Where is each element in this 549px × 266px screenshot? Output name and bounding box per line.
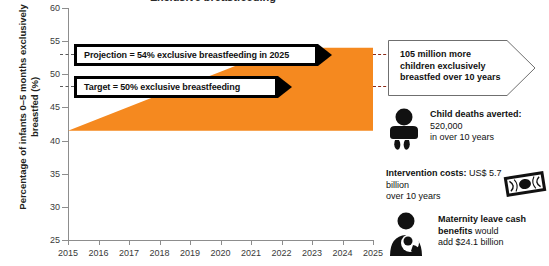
y-tick-label: 30 [38, 202, 60, 212]
breastfeeding-projection-area [68, 8, 373, 240]
x-tick-mark [373, 240, 374, 245]
stat-maternity-leave: Maternity leave cash benefits would add … [386, 212, 546, 258]
x-tick-mark [221, 240, 222, 245]
stat-child-deaths-value: 520,000 [430, 121, 463, 131]
y-tick-label: 40 [38, 136, 60, 146]
projection-axis-stub [60, 54, 74, 55]
banknote-icon [503, 171, 547, 197]
stat-intervention-costs-label: Intervention costs: [386, 168, 467, 178]
y-tick-label: 60 [38, 3, 60, 13]
x-tick-mark [99, 240, 100, 245]
x-tick-mark [190, 240, 191, 245]
x-tick-mark [343, 240, 344, 245]
stat-child-deaths-text: Child deaths averted: 520,000 in over 10… [430, 109, 542, 144]
impact-callout-text: 105 million more children exclusively br… [400, 49, 504, 84]
x-tick-mark [282, 240, 283, 245]
y-axis-label: Percentage of infants 0–5 months exclusi… [17, 0, 41, 232]
projection-banner: Projection = 54% exclusive breastfeeding… [74, 44, 318, 66]
stat-child-deaths-label: Child deaths averted: [430, 109, 522, 119]
breastfeeding-mother-icon [386, 212, 430, 256]
target-banner-arrowhead [278, 76, 292, 98]
y-tick-label: 50 [38, 69, 60, 79]
stat-maternity-leave-suffix: add $24.1 billion [438, 237, 504, 247]
target-banner-label: Target = 50% exclusive breastfeeding [77, 79, 275, 95]
baby-icon [386, 108, 422, 150]
projection-banner-label: Projection = 54% exclusive breastfeeding… [77, 47, 315, 63]
y-tick-label: 35 [38, 169, 60, 179]
plot-area [68, 8, 373, 240]
stat-maternity-leave-text: Maternity leave cash benefits would add … [438, 214, 548, 249]
y-tick-label: 45 [38, 102, 60, 112]
x-tick-mark [160, 240, 161, 245]
page-title: Exclusive breastfeeding [150, 0, 410, 3]
impact-callout: 105 million more children exclusively br… [388, 40, 536, 96]
target-axis-stub [60, 86, 74, 87]
stat-intervention-costs-text: Intervention costs: US$ 5.7 billion over… [386, 168, 506, 203]
stat-child-deaths: Child deaths averted: 520,000 in over 10… [386, 108, 546, 152]
x-tick-mark [251, 240, 252, 245]
stat-intervention-costs: Intervention costs: US$ 5.7 billion over… [386, 168, 546, 204]
stat-child-deaths-suffix: in over 10 years [430, 132, 494, 142]
stat-maternity-leave-value: would [473, 226, 499, 236]
target-banner: Target = 50% exclusive breastfeeding [74, 76, 278, 98]
projection-banner-arrowhead [318, 44, 332, 66]
x-tick-mark [68, 240, 69, 245]
x-tick-mark [312, 240, 313, 245]
y-tick-label: 25 [38, 235, 60, 245]
x-tick-mark [129, 240, 130, 245]
y-tick-label: 55 [38, 36, 60, 46]
stat-intervention-costs-suffix: over 10 years [386, 191, 441, 201]
infographic-root: Exclusive breastfeeding Percentage of in… [0, 0, 549, 266]
